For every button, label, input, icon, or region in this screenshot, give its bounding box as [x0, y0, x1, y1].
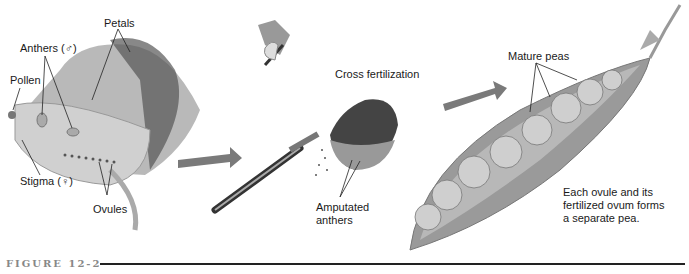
label-ovules: Ovules [93, 203, 127, 216]
label-pollen: Pollen [10, 74, 41, 87]
label-amputated-anthers-line2: anthers [316, 214, 353, 227]
label-anthers: Anthers (♂) [20, 42, 77, 55]
label-stigma: Stigma (♀) [20, 175, 73, 188]
pea-pod-illustration [410, 5, 680, 250]
flower-illustration [8, 29, 200, 230]
caption-line1: Each ovule and its [563, 186, 653, 199]
figure-rule [100, 263, 685, 265]
label-mature-peas: Mature peas [508, 50, 569, 63]
arrow-icon [443, 81, 507, 111]
label-petals: Petals [104, 17, 135, 30]
caption-line2: fertilized ovum forms [563, 199, 664, 212]
label-cross-fertilization: Cross fertilization [335, 68, 419, 81]
cross-fertilization-illustration [215, 20, 398, 210]
label-amputated-anthers-line1: Amputated [316, 201, 369, 214]
caption-line3: a separate pea. [563, 212, 639, 225]
figure-label: FIGURE 12-2 [6, 258, 101, 269]
illustration-canvas [0, 0, 689, 274]
arrow-icon [178, 147, 242, 168]
